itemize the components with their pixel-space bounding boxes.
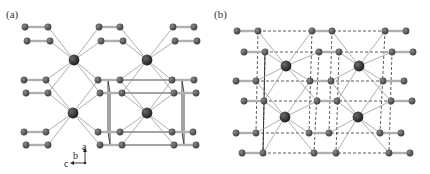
- small-atom: [45, 90, 52, 97]
- small-atom: [255, 28, 262, 35]
- panel-b-label: (b): [214, 8, 227, 20]
- small-atom: [193, 142, 200, 149]
- small-atom: [21, 129, 28, 136]
- small-atom: [117, 77, 124, 84]
- small-atom: [21, 77, 28, 84]
- small-atom: [98, 38, 105, 45]
- small-atom: [47, 38, 54, 45]
- bond: [336, 117, 358, 153]
- small-atom: [316, 49, 323, 56]
- small-atom: [23, 142, 30, 149]
- big-atom: [142, 108, 153, 119]
- bond: [120, 80, 147, 113]
- small-atom: [95, 77, 102, 84]
- axis-c-arrowhead: [70, 161, 74, 165]
- small-atom: [119, 90, 126, 97]
- small-atom: [377, 130, 384, 137]
- small-atom: [191, 24, 198, 31]
- bond: [74, 27, 99, 60]
- big-atom: [280, 112, 291, 123]
- small-atom: [334, 98, 341, 105]
- small-atom: [261, 98, 268, 105]
- big-atom: [354, 61, 365, 72]
- bond: [73, 113, 100, 145]
- small-atom: [380, 78, 387, 85]
- figure-canvas: [0, 0, 430, 174]
- small-atom: [233, 78, 240, 85]
- small-atom: [95, 129, 102, 136]
- small-atom: [306, 130, 313, 137]
- small-atom: [194, 38, 201, 45]
- bond: [285, 81, 310, 117]
- small-atom: [97, 142, 104, 149]
- small-atom: [169, 129, 176, 136]
- small-atom: [386, 150, 393, 157]
- small-atom: [43, 129, 50, 136]
- small-atom: [241, 49, 248, 56]
- small-atom: [96, 24, 103, 31]
- big-atom: [353, 112, 364, 123]
- small-atom: [382, 28, 389, 35]
- small-atom: [190, 129, 197, 136]
- bond: [263, 117, 285, 153]
- small-atom: [262, 49, 269, 56]
- small-atom: [171, 90, 178, 97]
- small-atom: [45, 24, 52, 31]
- big-atom: [142, 55, 153, 66]
- bond: [359, 66, 391, 101]
- small-atom: [260, 150, 267, 157]
- small-atom: [171, 142, 178, 149]
- bond: [358, 101, 391, 117]
- small-atom: [311, 150, 318, 157]
- bond: [332, 31, 359, 66]
- small-atom: [401, 78, 408, 85]
- small-atom: [314, 98, 321, 105]
- panel-a-label: (a): [6, 8, 18, 20]
- bond: [256, 81, 285, 117]
- small-atom: [43, 77, 50, 84]
- small-atom: [389, 49, 396, 56]
- small-atom: [398, 130, 405, 137]
- small-atom: [170, 24, 177, 31]
- bond: [358, 81, 383, 117]
- small-atom: [388, 98, 395, 105]
- small-atom: [233, 130, 240, 137]
- bond: [286, 66, 317, 101]
- axis-label-b: b: [73, 150, 78, 161]
- small-atom: [309, 28, 316, 35]
- axis-b-dot: [84, 162, 86, 164]
- small-atom: [253, 78, 260, 85]
- bond: [358, 117, 389, 153]
- bond: [122, 113, 147, 145]
- big-atom: [281, 61, 292, 72]
- axis-label-a: a: [82, 141, 86, 152]
- big-atom: [68, 108, 79, 119]
- bond: [48, 60, 74, 93]
- small-atom: [23, 90, 30, 97]
- axis-label-c: c: [64, 158, 68, 169]
- small-atom: [24, 38, 31, 45]
- bond: [147, 60, 174, 93]
- small-atom: [22, 24, 29, 31]
- small-atom: [253, 130, 260, 137]
- small-atom: [97, 90, 104, 97]
- small-atom: [117, 129, 124, 136]
- small-atom: [169, 77, 176, 84]
- small-atom: [234, 28, 241, 35]
- bond: [73, 80, 98, 113]
- bond: [74, 60, 100, 93]
- bond: [147, 80, 172, 113]
- small-atom: [410, 49, 417, 56]
- small-atom: [120, 38, 127, 45]
- small-atom: [403, 28, 410, 35]
- bond: [46, 80, 73, 113]
- small-atom: [193, 90, 200, 97]
- small-atom: [329, 28, 336, 35]
- bond: [258, 31, 286, 66]
- bond: [147, 27, 173, 60]
- small-atom: [117, 24, 124, 31]
- small-atom: [328, 78, 335, 85]
- small-atom: [307, 78, 314, 85]
- small-atom: [333, 150, 340, 157]
- bond: [147, 113, 174, 145]
